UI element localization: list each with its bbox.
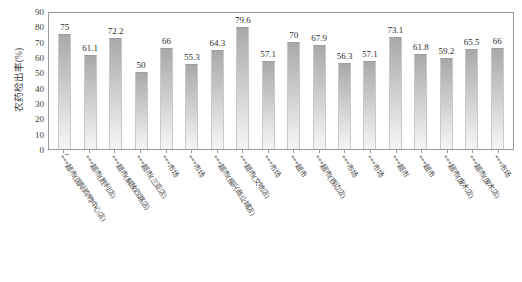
bar-slot: 61.8 (408, 13, 433, 149)
y-axis-tick-label: 70 (20, 38, 44, 47)
bar[interactable]: 64.3 (211, 50, 224, 149)
bar[interactable]: 57.1 (363, 61, 376, 149)
bar-slot: 66 (154, 13, 179, 149)
bar-chart-figure: 农药检出率(%) 9080706050403020100 7561.172.25… (0, 0, 522, 282)
bar[interactable]: 50 (135, 72, 148, 149)
bar-value-label: 56.3 (337, 52, 353, 61)
bar[interactable]: 66 (160, 48, 173, 149)
bar-slot: 67.9 (306, 13, 331, 149)
y-axis-tick-labels: 9080706050403020100 (20, 10, 44, 150)
x-axis-label-slot: ***市场 (256, 154, 282, 264)
x-axis-label-slot: ***市场 (179, 154, 205, 264)
bar-value-label: 73.1 (388, 26, 404, 35)
bar-slot: 70 (281, 13, 306, 149)
x-axis-label-slot: ***市场 (332, 154, 358, 264)
bar-value-label: 72.2 (108, 27, 124, 36)
x-axis-label-slot: ***超市 (409, 154, 435, 264)
x-axis-label-slot: ***市场 (486, 154, 512, 264)
y-axis-tick-label: 50 (20, 69, 44, 78)
x-axis-category-label: ***市场 (338, 154, 358, 179)
bar-value-label: 61.8 (413, 43, 429, 52)
x-axis-label-slot: ***超市(废木店) (434, 154, 460, 264)
y-axis-tick-label: 80 (20, 23, 44, 32)
bar-value-label: 59.2 (438, 47, 454, 56)
bar-slot: 72.2 (103, 13, 128, 149)
x-axis-label-slot: ***超市(铁边店) (307, 154, 333, 264)
x-axis-label-slot: ***市场 (153, 154, 179, 264)
bar-slot: 79.6 (230, 13, 255, 149)
x-axis-label-slot: ***市场 (358, 154, 384, 264)
bar-slot: 61.1 (77, 13, 102, 149)
bar-value-label: 57.1 (260, 50, 276, 59)
x-axis-label-slot: ***超市 (281, 154, 307, 264)
bar[interactable]: 57.1 (262, 61, 275, 149)
y-axis-tick-label: 30 (20, 100, 44, 109)
bar[interactable]: 73.1 (389, 37, 402, 149)
bar-slot: 56.3 (332, 13, 357, 149)
bar-slot: 75 (52, 13, 77, 149)
x-axis-label-slot: ***超市(三亚店) (128, 154, 154, 264)
x-axis-label-slot: ***超市 (383, 154, 409, 264)
bar-value-label: 70 (289, 31, 298, 40)
bar-value-label: 65.5 (464, 38, 480, 47)
bar-value-label: 55.3 (184, 53, 200, 62)
bar-value-label: 75 (60, 23, 69, 32)
bar-value-label: 67.9 (311, 34, 327, 43)
x-axis-category-label: ***市场 (492, 154, 512, 179)
bar[interactable]: 61.1 (84, 55, 97, 149)
bar-value-label: 50 (137, 61, 146, 70)
bar-series: 7561.172.2506655.364.379.657.17067.956.3… (49, 13, 513, 149)
y-axis-tick-label: 90 (20, 8, 44, 17)
bar-slot: 50 (128, 13, 153, 149)
bar-slot: 59.2 (434, 13, 459, 149)
bar[interactable]: 59.2 (440, 58, 453, 149)
x-axis-label-slot: ***超市(胜利店) (77, 154, 103, 264)
y-axis-tick-label: 10 (20, 130, 44, 139)
bar-slot: 57.1 (256, 13, 281, 149)
x-axis-category-label: ***超市 (389, 154, 409, 179)
x-axis-category-label: ***市场 (364, 154, 384, 179)
x-axis-label-slot: ***超市(国际购物中心店) (51, 154, 77, 264)
bar-value-label: 61.1 (82, 44, 98, 53)
x-axis-label-slot: ***超市(振兴商业城店) (204, 154, 230, 264)
y-axis-tick-label: 20 (20, 115, 44, 124)
bar[interactable]: 70 (287, 42, 300, 149)
bar[interactable]: 79.6 (236, 27, 249, 149)
x-axis-category-label: ***超市 (415, 154, 435, 179)
bar-value-label: 66 (162, 37, 171, 46)
bar-slot: 66 (484, 13, 509, 149)
x-axis-label-slot: ***超市(解放四路店) (102, 154, 128, 264)
bar[interactable]: 66 (491, 48, 504, 149)
y-axis-tick-label: 60 (20, 54, 44, 63)
bar-slot: 65.5 (459, 13, 484, 149)
bar-slot: 64.3 (205, 13, 230, 149)
bar-slot: 55.3 (179, 13, 204, 149)
x-axis-label-slot: ***超市(废木店) (460, 154, 486, 264)
bar-value-label: 57.1 (362, 50, 378, 59)
x-axis-category-label: ***市场 (185, 154, 205, 179)
bar[interactable]: 65.5 (465, 49, 478, 149)
bar[interactable]: 72.2 (109, 38, 122, 149)
bar[interactable]: 56.3 (338, 63, 351, 149)
bar-value-label: 66 (493, 37, 502, 46)
bar[interactable]: 55.3 (185, 64, 198, 149)
bar-value-label: 64.3 (209, 39, 225, 48)
x-axis-category-label: ***市场 (262, 154, 282, 179)
x-axis-category-label: ***市场 (159, 154, 179, 179)
bar-slot: 73.1 (383, 13, 408, 149)
bar[interactable]: 75 (58, 34, 71, 149)
x-axis-category-labels: ***超市(国际购物中心店)***超市(胜利店)***超市(解放四路店)***超… (48, 154, 514, 264)
x-axis-label-slot: ***超市(文地店) (230, 154, 256, 264)
bar-value-label: 79.6 (235, 16, 251, 25)
x-axis-category-label: ***超市 (287, 154, 307, 179)
y-axis-tick-label: 0 (20, 146, 44, 155)
bar-slot: 57.1 (357, 13, 382, 149)
bar[interactable]: 61.8 (414, 54, 427, 149)
y-axis-tick-label: 40 (20, 84, 44, 93)
bar[interactable]: 67.9 (313, 45, 326, 149)
plot-area: 7561.172.2506655.364.379.657.17067.956.3… (48, 12, 514, 150)
